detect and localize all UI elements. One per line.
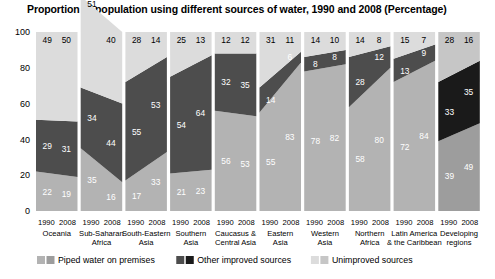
data-value-label: 13 bbox=[400, 66, 410, 76]
x-axis-year-label: 1990 bbox=[261, 218, 278, 227]
data-value-label: 44 bbox=[106, 138, 116, 148]
data-value-label: 34 bbox=[87, 113, 97, 123]
legend-swatch-icon bbox=[186, 256, 194, 264]
chart-panel: 17335553281419902008South-EasternAsia bbox=[122, 32, 171, 247]
data-value-label: 53 bbox=[240, 159, 250, 169]
chart-container: Proportion of population using different… bbox=[0, 0, 495, 279]
data-value-label: 83 bbox=[285, 132, 295, 142]
x-axis-group-label: Asia bbox=[273, 238, 289, 247]
data-value-label: 55 bbox=[266, 157, 276, 167]
x-axis-group-label: Central Asia bbox=[215, 238, 257, 247]
data-value-label: 72 bbox=[400, 142, 410, 152]
legend-swatch-icon bbox=[47, 256, 55, 264]
legend-label: Unimproved sources bbox=[332, 255, 413, 265]
chart-panel: 22192931495019902008Oceania bbox=[36, 32, 78, 238]
y-axis-tick-label: 20 bbox=[20, 170, 30, 180]
x-axis-year-label: 1990 bbox=[172, 218, 189, 227]
x-axis-group-label: Asia bbox=[318, 238, 334, 247]
x-axis-group-label: & the Caribbean bbox=[387, 238, 442, 247]
x-axis-year-label: 2008 bbox=[461, 218, 478, 227]
x-axis-year-label: 2008 bbox=[148, 218, 165, 227]
x-axis-year-label: 2008 bbox=[59, 218, 76, 227]
x-axis-group-label: Developing bbox=[440, 229, 478, 238]
data-value-label: 19 bbox=[62, 189, 72, 199]
data-value-label: 8 bbox=[377, 35, 382, 45]
stacked-area-chart-plot: 02040608010022192931495019902008Oceania3… bbox=[0, 0, 495, 279]
x-axis-year-label: 1990 bbox=[127, 218, 144, 227]
x-axis-group-label: Africa bbox=[92, 238, 112, 247]
chart-panel: 728413915719902008Latin America& the Car… bbox=[387, 32, 442, 247]
data-value-label: 31 bbox=[266, 35, 276, 45]
x-axis-year-label: 1990 bbox=[351, 218, 368, 227]
x-axis-group-label: Caucasus & bbox=[215, 229, 256, 238]
data-value-label: 80 bbox=[375, 135, 385, 145]
data-value-label: 64 bbox=[196, 108, 206, 118]
y-axis-tick-label: 80 bbox=[20, 63, 30, 73]
data-value-label: 49 bbox=[43, 35, 53, 45]
data-value-label: 32 bbox=[221, 77, 231, 87]
chart-panel: 39493335281619902008Developingregions bbox=[438, 32, 480, 247]
data-value-label: 82 bbox=[330, 133, 340, 143]
x-axis-year-label: 2008 bbox=[372, 218, 389, 227]
data-value-label: 33 bbox=[445, 107, 455, 117]
data-value-label: 10 bbox=[330, 35, 340, 45]
data-value-label: 49 bbox=[464, 162, 474, 172]
data-value-label: 35 bbox=[87, 175, 97, 185]
x-axis-year-label: 2008 bbox=[417, 218, 434, 227]
data-value-label: 40 bbox=[106, 35, 116, 45]
data-value-label: 53 bbox=[151, 100, 161, 110]
x-axis-year-label: 1990 bbox=[83, 218, 100, 227]
chart-panel: 56533235121219902008Caucasus &Central As… bbox=[215, 32, 257, 247]
data-value-label: 84 bbox=[419, 131, 429, 141]
x-axis-group-label: Northern bbox=[355, 229, 385, 238]
chart-panel: 5583146311119902008EasternAsia bbox=[260, 32, 302, 247]
data-value-label: 14 bbox=[311, 35, 321, 45]
chart-panel: 21235464251319902008SouthernAsia bbox=[170, 32, 212, 247]
x-axis-year-label: 1990 bbox=[38, 218, 55, 227]
data-value-label: 12 bbox=[240, 35, 250, 45]
data-value-label: 21 bbox=[177, 187, 187, 197]
x-axis-group-label: Asia bbox=[183, 238, 199, 247]
x-axis-year-label: 2008 bbox=[283, 218, 300, 227]
x-axis-year-label: 1990 bbox=[217, 218, 234, 227]
data-value-label: 15 bbox=[400, 35, 410, 45]
y-axis-tick-label: 100 bbox=[15, 27, 30, 37]
x-axis-year-label: 1990 bbox=[396, 218, 413, 227]
legend-swatch-icon bbox=[176, 256, 184, 264]
x-axis-group-label: regions bbox=[447, 238, 472, 247]
y-axis-tick-label: 60 bbox=[20, 99, 30, 109]
x-axis-group-label: Sub-Saharan bbox=[79, 229, 124, 238]
data-value-label: 16 bbox=[106, 192, 116, 202]
data-value-label: 33 bbox=[151, 177, 161, 187]
data-value-label: 25 bbox=[177, 35, 187, 45]
x-axis-group-label: Latin America bbox=[391, 229, 438, 238]
data-value-label: 16 bbox=[464, 35, 474, 45]
area-band bbox=[36, 32, 78, 122]
data-value-label: 58 bbox=[355, 154, 365, 164]
data-value-label: 29 bbox=[43, 141, 53, 151]
data-value-label: 35 bbox=[240, 80, 250, 90]
x-axis-year-label: 2008 bbox=[104, 218, 121, 227]
x-axis-year-label: 2008 bbox=[238, 218, 255, 227]
x-axis-group-label: South-Eastern bbox=[122, 229, 171, 238]
data-value-label: 8 bbox=[332, 52, 337, 62]
x-axis-group-label: Asia bbox=[139, 238, 155, 247]
x-axis-year-label: 2008 bbox=[193, 218, 210, 227]
legend-swatch-icon bbox=[311, 256, 319, 264]
data-value-label: 28 bbox=[445, 35, 455, 45]
area-band bbox=[394, 61, 436, 211]
x-axis-year-label: 2008 bbox=[327, 218, 344, 227]
chart-legend: Piped water on premisesOther improved so… bbox=[37, 255, 413, 265]
data-value-label: 14 bbox=[355, 35, 365, 45]
chart-panel: 35163444514019902008Sub-SaharanAfrica bbox=[79, 0, 124, 247]
data-value-label: 51 bbox=[87, 0, 97, 9]
data-value-label: 31 bbox=[62, 144, 72, 154]
data-value-label: 7 bbox=[422, 35, 427, 45]
y-axis: 020406080100 bbox=[15, 27, 30, 216]
legend-label: Piped water on premises bbox=[58, 255, 155, 265]
legend-swatch-icon bbox=[37, 256, 45, 264]
data-value-label: 50 bbox=[62, 35, 72, 45]
y-axis-tick-label: 40 bbox=[20, 135, 30, 145]
x-axis-group-label: Oceania bbox=[43, 229, 72, 238]
data-value-label: 39 bbox=[445, 171, 455, 181]
